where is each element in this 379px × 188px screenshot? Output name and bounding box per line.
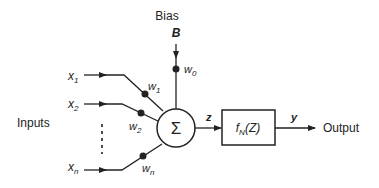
x2-label: x2: [67, 97, 79, 113]
xn-line: [104, 144, 162, 170]
bias-symbol: B: [172, 26, 181, 40]
weight-node-wn: [140, 153, 147, 160]
sigma-symbol: Σ: [171, 119, 182, 138]
weight-node-w2: [138, 110, 145, 117]
w0-label: w0: [184, 63, 197, 78]
bias-label: Bias: [155, 9, 178, 23]
xn-label: xn: [67, 160, 79, 176]
z-label: z: [205, 111, 212, 123]
output-label: Output: [323, 121, 360, 135]
w1-label: w1: [148, 80, 160, 95]
wn-label: wn: [142, 162, 155, 177]
w2-label: w2: [129, 120, 142, 135]
y-label: y: [290, 111, 298, 123]
neuron-diagram: Bias B w0 Inputs x1 w1 x2 w2 xn wn Σ z f…: [0, 0, 379, 188]
x1-label: x1: [67, 69, 78, 85]
inputs-label: Inputs: [17, 116, 50, 130]
weight-node-w0: [173, 66, 180, 73]
